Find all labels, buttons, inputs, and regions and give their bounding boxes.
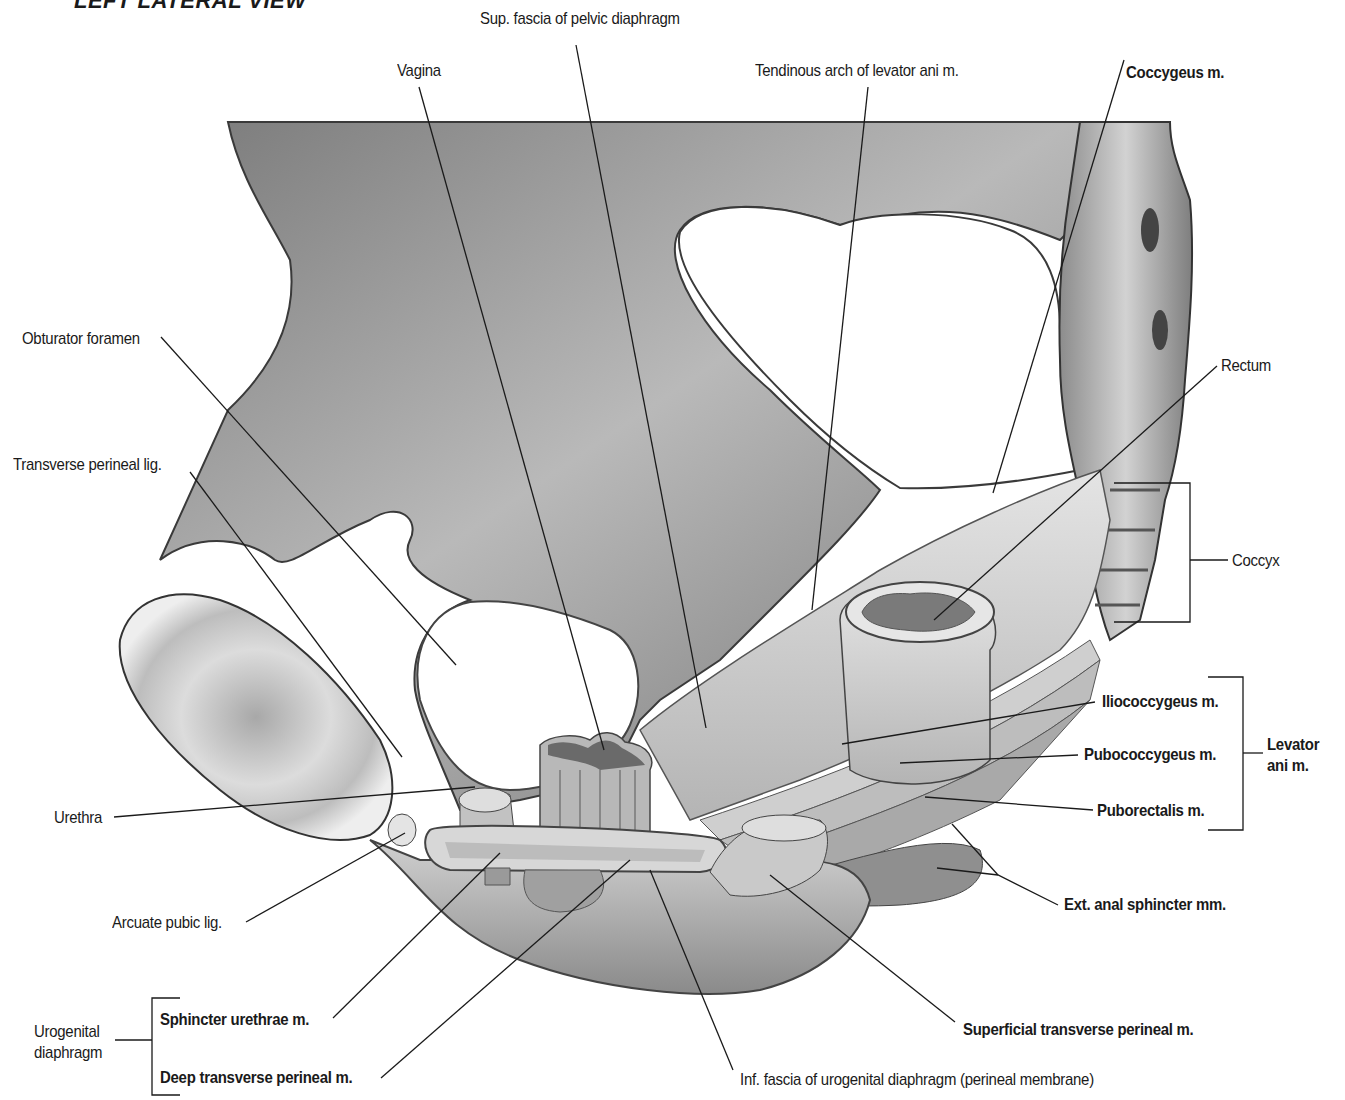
label-sphincter-urethrae: Sphincter urethrae m. (160, 1010, 309, 1030)
label-superficial-transverse-perineal: Superficial transverse perineal m. (963, 1020, 1194, 1040)
label-rectum: Rectum (1221, 356, 1271, 376)
label-obturator-foramen: Obturator foramen (22, 329, 140, 349)
label-sup-fascia: Sup. fascia of pelvic diaphragm (480, 9, 680, 29)
label-urogenital-diaphragm: Urogenital diaphragm (34, 1021, 122, 1063)
label-deep-transverse-perineal: Deep transverse perineal m. (160, 1068, 352, 1088)
arcuate-pubic-lig (388, 814, 416, 846)
label-iliococcygeus: Iliococcygeus m. (1102, 692, 1218, 712)
pelvis-illustration (0, 0, 1345, 1100)
label-ext-anal-sphincter: Ext. anal sphincter mm. (1064, 895, 1226, 915)
label-urethra: Urethra (54, 808, 102, 828)
label-pubococcygeus: Pubococcygeus m. (1084, 745, 1216, 765)
label-arcuate-pubic-lig: Arcuate pubic lig. (112, 913, 222, 933)
anatomy-figure: LEFT LATERAL VIEW (0, 0, 1345, 1100)
label-urogenital-line1: Urogenital (34, 1021, 122, 1042)
label-inf-fascia: Inf. fascia of urogenital diaphragm (per… (740, 1070, 1094, 1090)
pubic-symphysis (120, 594, 393, 840)
label-coccyx: Coccyx (1232, 551, 1279, 571)
label-puborectalis: Puborectalis m. (1097, 801, 1204, 821)
label-urogenital-line2: diaphragm (34, 1042, 122, 1063)
label-transverse-perineal-lig: Transverse perineal lig. (13, 455, 162, 475)
label-levator-ani: Levator ani m. (1267, 734, 1337, 776)
label-vagina: Vagina (397, 61, 441, 81)
label-tendinous-arch: Tendinous arch of levator ani m. (755, 61, 959, 81)
label-coccygeus: Coccygeus m. (1126, 63, 1224, 83)
label-levator-ani-line1: Levator (1267, 734, 1337, 755)
label-levator-ani-line2: ani m. (1267, 755, 1337, 776)
